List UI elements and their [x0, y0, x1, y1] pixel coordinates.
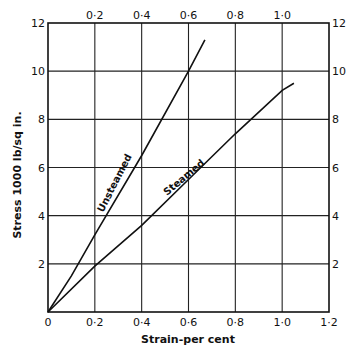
- y-tick-left: 8: [38, 113, 45, 126]
- y-tick-right: 2: [332, 258, 339, 271]
- x-axis-label: Strain-per cent: [141, 333, 235, 346]
- y-tick-right: 4: [332, 210, 339, 223]
- x-tick-bottom: 0·2: [86, 316, 104, 329]
- x-tick-bottom: 0·6: [180, 316, 198, 329]
- x-tick-bottom: 1·0: [273, 316, 291, 329]
- steamed-curve: [48, 83, 294, 312]
- y-tick-left: 4: [38, 210, 45, 223]
- x-tick-bottom: 1·2: [320, 316, 338, 329]
- x-tick-bottom: 0·8: [227, 316, 245, 329]
- unsteamed-curve-label: Unsteamed: [95, 152, 134, 214]
- x-tick-bottom: 0: [45, 316, 52, 329]
- y-tick-right: 12: [332, 17, 346, 30]
- x-tick-top: 0·4: [133, 9, 151, 22]
- y-tick-left: 6: [38, 162, 45, 175]
- x-tick-top: 0·6: [180, 9, 198, 22]
- y-tick-right: 6: [332, 162, 339, 175]
- x-tick-bottom: 0·4: [133, 316, 151, 329]
- x-tick-top: 1·0: [273, 9, 291, 22]
- y-tick-left: 10: [31, 65, 45, 78]
- y-tick-left: 2: [38, 258, 45, 271]
- x-tick-top: 0·8: [227, 9, 245, 22]
- steamed-curve-label: Steamed: [161, 157, 206, 197]
- curves: [48, 40, 294, 312]
- stress-strain-chart: 00·20·40·60·81·01·20·20·40·60·81·0246810…: [0, 0, 348, 351]
- y-tick-left: 12: [31, 17, 45, 30]
- x-tick-top: 0·2: [86, 9, 104, 22]
- y-axis-label: Stress 1000 lb/sq in.: [11, 111, 24, 238]
- y-tick-right: 8: [332, 113, 339, 126]
- y-tick-right: 10: [332, 65, 346, 78]
